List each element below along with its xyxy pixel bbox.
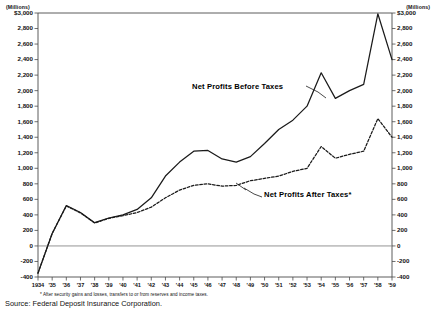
x-tick-label: '43 — [162, 283, 170, 289]
y-tick-label-left: 2,800 — [18, 25, 33, 31]
x-tick-label: '45 — [190, 283, 198, 289]
y-tick-label-right: -400 — [397, 274, 409, 280]
y-tick-label-right: 2,400 — [397, 56, 412, 62]
y-tick-label-right: $3,000 — [397, 10, 416, 16]
x-tick-label: '46 — [204, 283, 212, 289]
chart-container: (Millions) (Millions) $3,0002,8002,6002,… — [0, 0, 434, 311]
y-tick-label-right: 600 — [397, 196, 407, 202]
x-tick-label: '49 — [247, 283, 255, 289]
x-tick-label: '57 — [360, 283, 368, 289]
y-tick-label-left: 2,200 — [18, 72, 33, 78]
x-tick-label: '56 — [346, 283, 354, 289]
y-tick-label-right: 1,600 — [397, 119, 412, 125]
x-tick-label: '44 — [176, 283, 184, 289]
y-tick-label-right: 1,200 — [397, 150, 412, 156]
y-tick-label-left: -400 — [21, 274, 33, 280]
y-tick-label-left: 1,600 — [18, 119, 33, 125]
x-tick-label: '48 — [232, 283, 240, 289]
y-tick-label-left: 400 — [23, 212, 33, 218]
y-tick-label-left: 600 — [23, 196, 33, 202]
y-tick-label-right: 800 — [397, 181, 407, 187]
y-tick-label-left: 2,600 — [18, 41, 33, 47]
y-tick-label-left: 1,000 — [18, 165, 33, 171]
y-tick-label-left: $3,000 — [14, 10, 33, 16]
y-tick-label-right: 2,600 — [397, 41, 412, 47]
y-tick-label-left: 0 — [30, 243, 33, 249]
x-tick-label: '59 — [388, 283, 396, 289]
x-tick-label: '39 — [105, 283, 113, 289]
leader-line-before-taxes — [306, 86, 326, 98]
x-tick-label: 1934 — [32, 283, 44, 289]
x-tick-label: '54 — [317, 283, 325, 289]
y-tick-label-left: 1,400 — [18, 134, 33, 140]
x-tick-label: '40 — [119, 283, 127, 289]
y-tick-label-right: 400 — [397, 212, 407, 218]
y-tick-label-left: 2,400 — [18, 56, 33, 62]
x-tick-label: '53 — [303, 283, 311, 289]
y-tick-label-right: 1,400 — [397, 134, 412, 140]
y-tick-label-right: 2,800 — [397, 25, 412, 31]
y-tick-label-left: 1,200 — [18, 150, 33, 156]
leader-line-after-taxes — [244, 188, 262, 197]
x-tick-label: '36 — [63, 283, 71, 289]
y-tick-label-right: 200 — [397, 227, 407, 233]
series-label-after-taxes: Net Profits After Taxes* — [264, 190, 352, 199]
series-label-before-taxes: Net Profits Before Taxes — [192, 82, 283, 91]
x-tick-label: '41 — [133, 283, 141, 289]
x-tick-label: '37 — [77, 283, 85, 289]
footnote: * After security gains and losses, trans… — [40, 292, 208, 297]
x-tick-label: '52 — [289, 283, 297, 289]
x-tick-label: '47 — [218, 283, 226, 289]
y-tick-label-right: 1,000 — [397, 165, 412, 171]
source-line: Source: Federal Deposit Insurance Corpor… — [5, 299, 162, 308]
x-tick-label: '35 — [48, 283, 56, 289]
y-tick-label-right: 2,000 — [397, 88, 412, 94]
x-tick-label: '42 — [147, 283, 155, 289]
y-tick-label-left: 200 — [23, 227, 33, 233]
y-tick-label-right: -200 — [397, 258, 409, 264]
x-tick-label: '55 — [332, 283, 340, 289]
y-tick-label-right: 1,800 — [397, 103, 412, 109]
y-tick-label-left: -200 — [21, 258, 33, 264]
y-tick-label-left: 800 — [23, 181, 33, 187]
y-tick-label-right: 2,200 — [397, 72, 412, 78]
x-tick-label: '51 — [275, 283, 283, 289]
x-tick-label: '50 — [261, 283, 269, 289]
y-tick-label-right: 0 — [397, 243, 400, 249]
y-tick-label-left: 1,800 — [18, 103, 33, 109]
plot-area — [0, 0, 434, 311]
x-tick-label: '58 — [374, 283, 382, 289]
x-tick-label: '38 — [91, 283, 99, 289]
y-tick-label-left: 2,000 — [18, 88, 33, 94]
series-line-before-taxes — [38, 14, 392, 273]
